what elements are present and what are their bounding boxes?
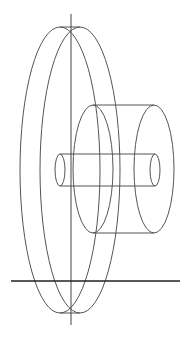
shaft-back-face bbox=[150, 154, 160, 186]
disc-front-face bbox=[20, 27, 100, 313]
shaft-front-face bbox=[55, 154, 65, 186]
hub-back-face bbox=[134, 105, 174, 233]
diagram-canvas bbox=[0, 0, 188, 342]
disc bbox=[20, 27, 120, 313]
wheel-wireframe-diagram bbox=[0, 0, 188, 342]
hub bbox=[73, 105, 174, 233]
hub-front-face bbox=[73, 105, 113, 233]
disc-back-face bbox=[40, 27, 120, 313]
